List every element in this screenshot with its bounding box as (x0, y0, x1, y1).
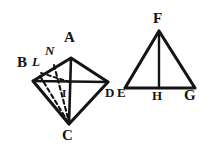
vertex-label-b: B (17, 55, 27, 70)
geometric-figure: A B C D I L N E F G H (0, 0, 212, 155)
construction-label-l: L (32, 55, 40, 68)
vertex-label-c: C (62, 128, 73, 143)
vertex-label-a: A (64, 30, 75, 45)
rhombus-diagonal-ac (69, 58, 71, 124)
vertex-label-d: D (105, 86, 114, 99)
triangle-efg-group (125, 31, 195, 88)
vertex-label-e: E (117, 86, 126, 99)
altitude-foot-label-h: H (152, 89, 162, 102)
center-label-i: I (62, 88, 66, 99)
vertex-label-f: F (153, 11, 162, 26)
figure-canvas (0, 0, 212, 155)
vertex-label-g: G (184, 88, 196, 103)
rhombus-abcd-group (33, 58, 108, 124)
construction-label-n: N (45, 44, 54, 57)
